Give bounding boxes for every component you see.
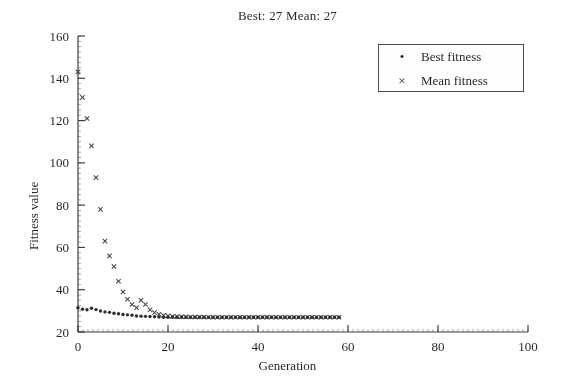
svg-text:20: 20 [56,325,69,340]
svg-text:140: 140 [50,71,70,86]
svg-text:80: 80 [432,339,445,354]
svg-text:100: 100 [518,339,538,354]
svg-text:0: 0 [75,339,82,354]
legend-label-best: Best fitness [421,49,481,65]
svg-text:60: 60 [56,240,69,255]
legend-label-mean: Mean fitness [421,73,488,89]
svg-text:160: 160 [50,29,70,44]
svg-text:100: 100 [50,155,70,170]
chart-legend: • Best fitness × Mean fitness [378,44,524,92]
legend-item-mean-fitness: × Mean fitness [379,69,523,93]
legend-cross-icon: × [389,75,415,87]
svg-text:120: 120 [50,113,70,128]
legend-dot-icon: • [389,51,415,63]
svg-text:40: 40 [56,282,69,297]
svg-text:20: 20 [162,339,175,354]
legend-item-best-fitness: • Best fitness [379,45,523,69]
chart-figure: Best: 27 Mean: 27 2040608010012014016002… [0,0,575,387]
series-mean-fitness [76,70,341,320]
svg-text:40: 40 [252,339,265,354]
svg-text:60: 60 [342,339,355,354]
y-axis-label: Fitness value [26,182,42,250]
svg-text:80: 80 [56,198,69,213]
x-axis-label: Generation [0,358,575,374]
